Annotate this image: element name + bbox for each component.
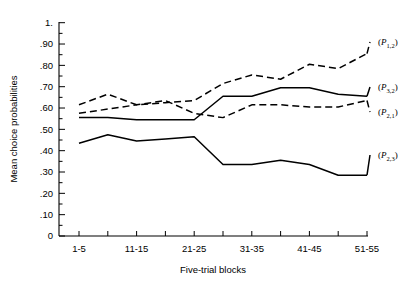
y-axis-ticks: [59, 23, 65, 236]
series-label-2-3: (P2,3): [378, 150, 398, 162]
y-tick-label: .90: [40, 38, 53, 49]
leader-line-2-1: [367, 101, 370, 112]
series-line-2-3: [79, 135, 367, 176]
y-tick-label: .30: [40, 166, 53, 177]
series-label-3-2: (P3,2): [378, 82, 398, 94]
y-tick-label: .40: [40, 145, 53, 156]
y-tick-label: .50: [40, 124, 53, 135]
leader-line-3-2: [367, 87, 370, 96]
x-tick-label: 51-55: [355, 243, 379, 254]
series-line-2-1: [79, 101, 367, 118]
y-tick-label: .20: [40, 188, 53, 199]
x-tick-label: 41-45: [297, 243, 321, 254]
y-tick-label: 1.: [45, 17, 53, 28]
y-tick-label: .70: [40, 81, 53, 92]
line-chart: 0.10.20.30.40.50.60.70.80.901. 1-511-152…: [0, 0, 416, 289]
series-label-2-1: (P2,1): [378, 107, 398, 119]
x-tick-label: 1-5: [72, 243, 86, 254]
leader-line-2-3: [367, 155, 370, 175]
y-axis-tick-labels: 0.10.20.30.40.50.60.70.80.901.: [40, 17, 53, 241]
leader-line-1-2: [367, 42, 370, 54]
y-tick-label: .10: [40, 209, 53, 220]
series-line-3-2: [79, 88, 367, 120]
series-leader-lines: [367, 42, 370, 175]
x-axis-title: Five-trial blocks: [180, 264, 246, 275]
x-tick-label: 31-35: [240, 243, 264, 254]
y-tick-label: .60: [40, 102, 53, 113]
series-label-1-2: (P1,2): [378, 37, 398, 49]
x-axis-ticks: [79, 231, 367, 236]
y-tick-label: .80: [40, 60, 53, 71]
data-series-group: [79, 54, 367, 176]
y-axis-title: Mean choice probabilities: [8, 75, 19, 182]
x-axis-tick-labels: 1-511-1521-2531-3541-4551-55: [72, 243, 379, 254]
y-tick-label: 0: [48, 230, 53, 241]
x-tick-label: 11-15: [125, 243, 149, 254]
x-tick-label: 21-25: [182, 243, 206, 254]
chart-container: 0.10.20.30.40.50.60.70.80.901. 1-511-152…: [0, 0, 416, 289]
series-labels-group: (P1,2)(P3,2)(P2,1)(P2,3): [378, 37, 398, 162]
